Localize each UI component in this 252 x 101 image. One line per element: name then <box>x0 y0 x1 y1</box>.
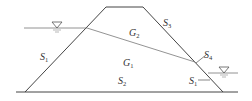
label-s1-right: S1 <box>189 75 197 87</box>
label-s3: S3 <box>163 17 171 29</box>
label-s1-left: S1 <box>40 51 48 63</box>
water-level-icon-upstream <box>52 22 62 32</box>
label-s4: S4 <box>204 49 213 61</box>
label-s2: S2 <box>118 75 126 87</box>
water-level-icon-downstream <box>219 67 229 77</box>
dam-section-diagram: S1 S3 G2 G1 S2 S4 S1 <box>0 0 252 101</box>
label-g1: G1 <box>123 57 133 69</box>
label-g2: G2 <box>129 27 139 39</box>
